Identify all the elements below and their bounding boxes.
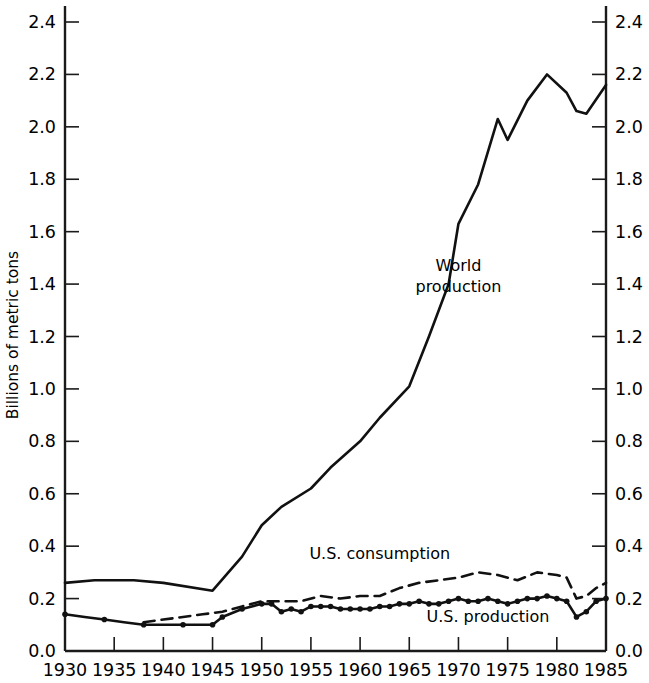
y-tick-label-left: 0.4 (28, 536, 56, 556)
series-marker-2 (475, 598, 481, 604)
x-tick-label: 1955 (289, 660, 334, 680)
series-marker-2 (259, 601, 265, 607)
series-marker-2 (603, 596, 609, 602)
world-production-label: World (436, 256, 482, 275)
line-chart-canvas: Billions of metric tons 0.00.20.40.60.81… (0, 0, 649, 683)
x-tick-label: 1975 (485, 660, 530, 680)
series-marker-2 (102, 617, 108, 623)
series-marker-2 (62, 612, 68, 618)
x-tick-label: 1950 (239, 660, 284, 680)
x-tick-label: 1945 (190, 660, 235, 680)
y-tick-label-left: 0.6 (28, 484, 56, 504)
x-tick-label: 1970 (436, 660, 481, 680)
series-marker-2 (288, 606, 294, 612)
y-axis-title-text: Billions of metric tons (4, 251, 22, 419)
y-tick-label-right: 1.8 (615, 169, 643, 189)
series-marker-2 (406, 601, 412, 607)
series-marker-2 (544, 593, 550, 599)
series-marker-2 (328, 604, 334, 610)
series-line-0 (65, 74, 606, 590)
y-tick-label-right: 1.4 (615, 274, 643, 294)
series-marker-2 (515, 598, 521, 604)
series-marker-2 (397, 601, 403, 607)
y-tick-label-right: 2.0 (615, 117, 643, 137)
series-marker-2 (574, 614, 580, 620)
series-marker-2 (141, 622, 147, 628)
series-marker-2 (357, 606, 363, 612)
series-marker-2 (308, 604, 314, 610)
series-marker-2 (554, 596, 560, 602)
y-tick-label-left: 1.6 (28, 222, 56, 242)
series-marker-2 (338, 606, 344, 612)
x-tick-label: 1960 (338, 660, 383, 680)
series-marker-2 (584, 609, 590, 615)
y-axis-left-tick-labels: 0.00.20.40.60.81.01.21.41.61.82.02.22.4 (28, 12, 56, 661)
y-tick-label-left: 0.2 (28, 589, 56, 609)
y-tick-label-right: 0.0 (615, 641, 643, 661)
y-tick-label-right: 1.0 (615, 379, 643, 399)
series-annotations: WorldproductionU.S. consumptionU.S. prod… (309, 256, 549, 626)
series-marker-2 (436, 601, 442, 607)
series-marker-2 (446, 598, 452, 604)
y-axis-right-tick-labels: 0.00.20.40.60.81.01.21.41.61.82.02.22.4 (615, 12, 643, 661)
series-marker-2 (495, 598, 501, 604)
x-tick-label: 1965 (387, 660, 432, 680)
series-marker-2 (239, 606, 245, 612)
x-tick-label: 1935 (92, 660, 137, 680)
y-tick-label-right: 2.4 (615, 12, 643, 32)
y-tick-label-left: 1.4 (28, 274, 56, 294)
y-tick-label-left: 1.8 (28, 169, 56, 189)
x-tick-label: 1980 (535, 660, 580, 680)
world-production-label-line2: production (415, 277, 501, 296)
x-tick-label: 1985 (584, 660, 629, 680)
series-marker-2 (269, 601, 275, 607)
y-tick-label-right: 0.6 (615, 484, 643, 504)
series-marker-2 (210, 622, 216, 628)
series-marker-2 (456, 596, 462, 602)
series-marker-2 (505, 601, 511, 607)
series-marker-2 (318, 604, 324, 610)
y-tick-label-left: 2.4 (28, 12, 56, 32)
y-tick-label-left: 0.0 (28, 641, 56, 661)
y-tick-label-left: 0.8 (28, 431, 56, 451)
y-tick-label-left: 1.0 (28, 379, 56, 399)
series-marker-2 (465, 598, 471, 604)
y-tick-label-right: 2.2 (615, 64, 643, 84)
series-marker-2 (180, 622, 186, 628)
y-tick-label-right: 0.8 (615, 431, 643, 451)
series-marker-2 (525, 596, 531, 602)
series-marker-2 (593, 598, 599, 604)
x-axis-tick-labels: 1930193519401945195019551960196519701975… (43, 660, 629, 680)
series-marker-2 (485, 596, 491, 602)
y-tick-label-left: 2.2 (28, 64, 56, 84)
us-consumption-label: U.S. consumption (309, 544, 450, 563)
series-marker-2 (220, 614, 226, 620)
us-production-label: U.S. production (426, 607, 549, 626)
y-tick-label-right: 0.4 (615, 536, 643, 556)
series-marker-2 (534, 596, 540, 602)
y-axis-title: Billions of metric tons (4, 251, 22, 419)
x-tick-label: 1940 (141, 660, 186, 680)
y-tick-label-right: 0.2 (615, 589, 643, 609)
series-marker-2 (564, 598, 570, 604)
series-marker-2 (367, 606, 373, 612)
series-marker-2 (387, 604, 393, 610)
y-tick-label-right: 1.6 (615, 222, 643, 242)
y-tick-label-left: 2.0 (28, 117, 56, 137)
series-marker-2 (426, 601, 432, 607)
series-marker-2 (347, 606, 353, 612)
chart-figure: Billions of metric tons 0.00.20.40.60.81… (0, 0, 649, 683)
series-marker-2 (377, 604, 383, 610)
series-marker-2 (298, 609, 304, 615)
series-marker-2 (279, 609, 285, 615)
series-marker-2 (416, 598, 422, 604)
y-tick-label-right: 1.2 (615, 327, 643, 347)
y-tick-label-left: 1.2 (28, 327, 56, 347)
x-tick-label: 1930 (43, 660, 88, 680)
